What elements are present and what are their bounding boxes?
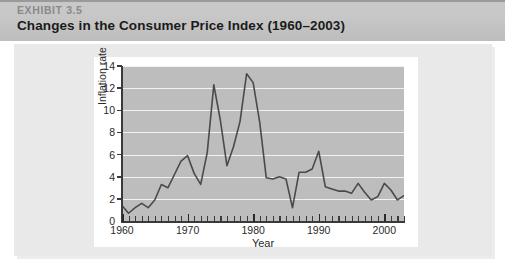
x-tick-minor-1992 — [332, 216, 333, 221]
x-tick-minor-1983 — [273, 216, 274, 221]
panel-shadow-right — [492, 47, 495, 256]
x-tick-minor-1968 — [175, 216, 176, 221]
exhibit-number-label: EXHIBIT 3.5 — [17, 4, 83, 16]
plot-area — [122, 66, 404, 221]
x-tick-label-1980: 1980 — [242, 225, 265, 236]
x-tick-minor-2003 — [404, 216, 405, 221]
x-tick-minor-1996 — [358, 216, 359, 221]
y-tick-label-14: 14 — [103, 61, 115, 71]
x-tick-minor-1971 — [194, 216, 195, 221]
x-tick-minor-1984 — [279, 216, 280, 221]
x-tick-label-1990: 1990 — [307, 225, 330, 236]
x-tick-major-1980 — [253, 214, 255, 222]
x-tick-minor-2002 — [397, 216, 398, 221]
x-tick-minor-1995 — [352, 216, 353, 221]
x-tick-minor-1967 — [168, 216, 169, 221]
x-tick-minor-2001 — [391, 216, 392, 221]
x-tick-minor-1982 — [266, 216, 267, 221]
panel-shadow-bottom — [17, 256, 495, 259]
y-tick-label-4: 4 — [109, 172, 115, 182]
y-tick-label-8: 8 — [109, 127, 115, 137]
x-axis-line — [121, 221, 405, 223]
x-tick-minor-1962 — [135, 216, 136, 221]
x-tick-minor-1964 — [148, 216, 149, 221]
y-tick-label-12: 12 — [103, 83, 115, 93]
x-tick-minor-1965 — [155, 216, 156, 221]
x-tick-minor-1987 — [299, 216, 300, 221]
x-tick-major-1990 — [319, 214, 321, 222]
header-top-rule — [0, 0, 505, 2]
x-tick-label-2000: 2000 — [373, 225, 396, 236]
x-tick-minor-1986 — [293, 216, 294, 221]
x-tick-minor-1997 — [365, 216, 366, 221]
x-tick-major-1960 — [122, 214, 124, 222]
exhibit-figure: EXHIBIT 3.5 Changes in the Consumer Pric… — [0, 0, 505, 276]
y-axis-line — [121, 66, 123, 221]
x-tick-minor-1988 — [306, 216, 307, 221]
x-tick-minor-1978 — [240, 216, 241, 221]
x-tick-minor-1998 — [371, 216, 372, 221]
x-tick-minor-1994 — [345, 216, 346, 221]
y-tick-label-6: 6 — [109, 150, 115, 160]
y-tick-label-10: 10 — [103, 105, 115, 115]
x-tick-major-1970 — [188, 214, 190, 222]
x-axis-title: Year — [252, 237, 274, 249]
x-tick-minor-1975 — [220, 216, 221, 221]
x-tick-label-1960: 1960 — [110, 225, 133, 236]
plot-wrapper — [122, 66, 404, 221]
x-tick-minor-1993 — [338, 216, 339, 221]
x-tick-minor-1966 — [161, 216, 162, 221]
x-tick-minor-1961 — [129, 216, 130, 221]
x-tick-minor-1973 — [207, 216, 208, 221]
x-tick-major-2000 — [384, 214, 386, 222]
x-tick-minor-1985 — [286, 216, 287, 221]
x-tick-minor-1974 — [214, 216, 215, 221]
x-tick-minor-1976 — [227, 216, 228, 221]
x-tick-minor-1979 — [247, 216, 248, 221]
x-tick-label-1970: 1970 — [176, 225, 199, 236]
x-tick-minor-1972 — [201, 216, 202, 221]
x-tick-minor-1963 — [142, 216, 143, 221]
x-tick-minor-1989 — [312, 216, 313, 221]
y-axis-title: Inflation rate — [96, 47, 108, 105]
x-tick-minor-1991 — [325, 216, 326, 221]
x-tick-minor-1999 — [378, 216, 379, 221]
x-tick-minor-1969 — [181, 216, 182, 221]
x-tick-minor-1981 — [260, 216, 261, 221]
x-tick-minor-1977 — [234, 216, 235, 221]
inflation-rate-line-series — [122, 66, 404, 221]
exhibit-title: Changes in the Consumer Price Index (196… — [17, 17, 345, 34]
y-tick-label-2: 2 — [109, 194, 115, 204]
